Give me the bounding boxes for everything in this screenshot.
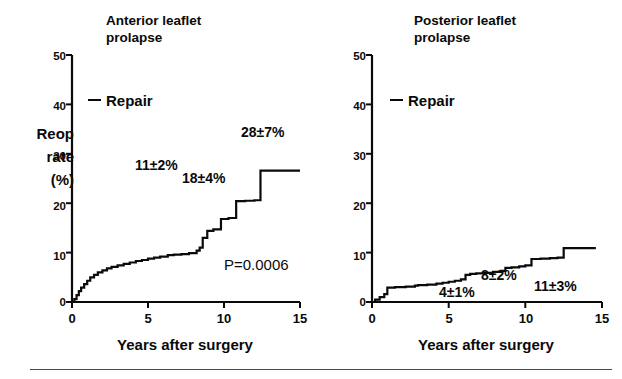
chart-panel-anterior: Anterior leaflet prolapse Reop rate (%) … — [0, 0, 311, 379]
axes-posterior — [366, 55, 602, 308]
plot-area-anterior — [0, 0, 311, 379]
chart-panel-posterior: Posterior leaflet prolapse Repair 4±1% 8… — [311, 0, 622, 379]
axes-anterior — [66, 55, 300, 308]
plot-area-posterior — [311, 0, 622, 379]
bottom-divider — [30, 369, 612, 370]
step-curve-repair-anterior — [72, 171, 300, 302]
step-curve-repair-posterior — [372, 248, 596, 302]
figure-container: Anterior leaflet prolapse Reop rate (%) … — [0, 0, 622, 379]
